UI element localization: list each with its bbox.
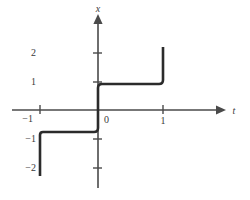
x-axis-label: t — [233, 105, 236, 116]
y-axis-label: x — [95, 3, 101, 14]
x-axis-arrowhead — [93, 14, 102, 24]
y-tick-label-minus-2: −2 — [25, 162, 36, 173]
y-tick-label-2: 2 — [31, 47, 36, 58]
x-tick-label-0: 0 — [104, 114, 109, 125]
step-function-curve — [40, 47, 163, 176]
t-axis-arrowhead — [216, 105, 226, 114]
x-tick-label-1: 1 — [161, 115, 166, 126]
plot-canvas: 2 1 −1 −2 −1 0 1 x t — [0, 0, 250, 200]
t-axis — [12, 105, 226, 114]
y-tick-label-minus-1: −1 — [25, 133, 36, 144]
step-function-figure: 2 1 −1 −2 −1 0 1 x t — [0, 0, 250, 200]
y-tick-label-1: 1 — [31, 76, 36, 87]
x-tick-label-minus-1: −1 — [22, 113, 33, 124]
